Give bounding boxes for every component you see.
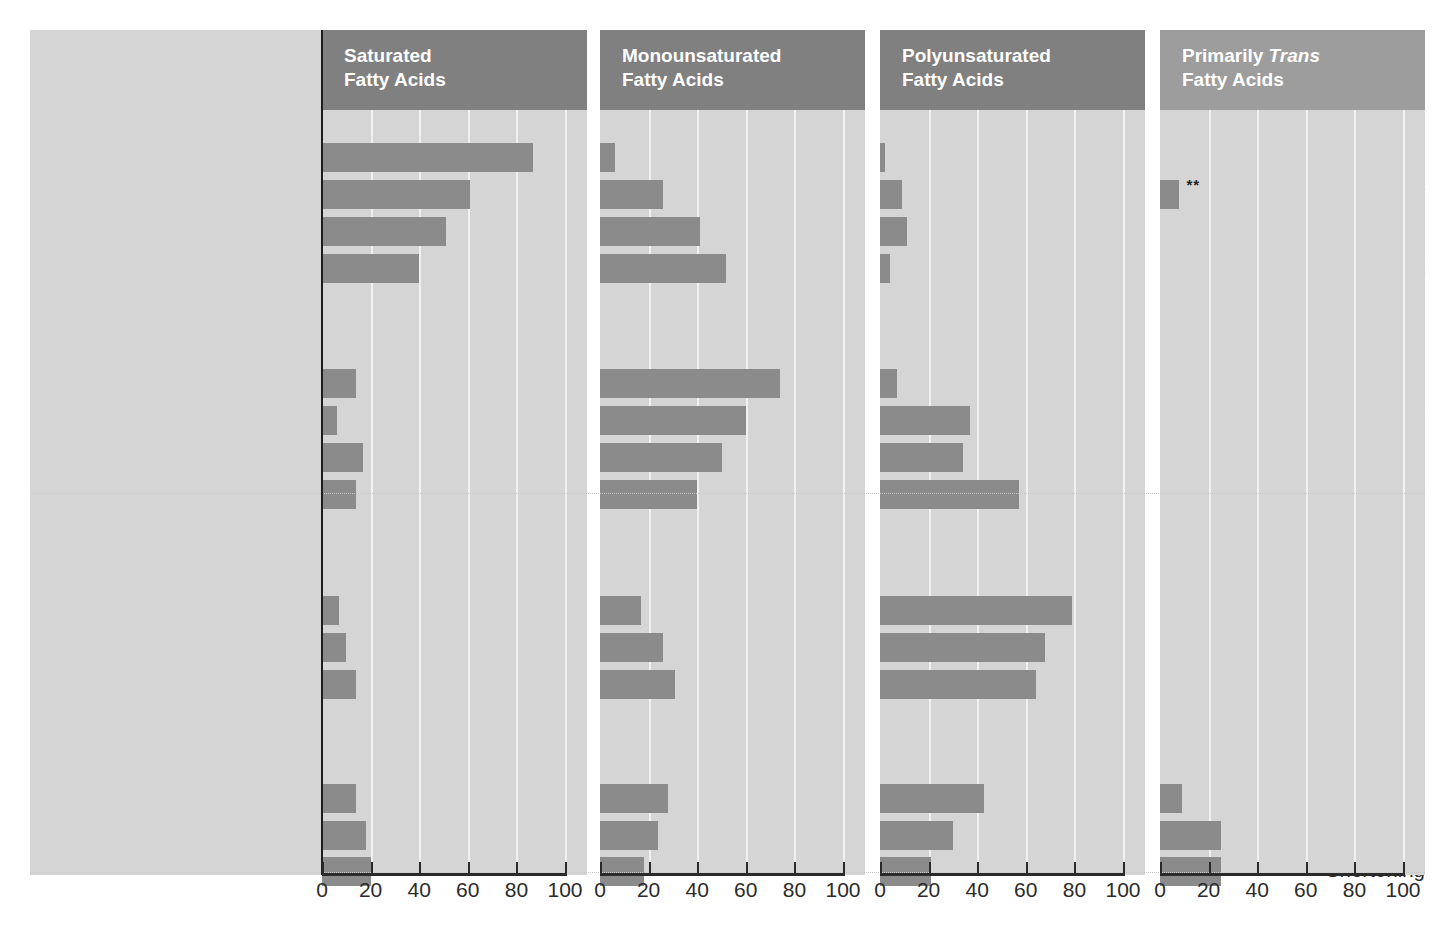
bar-polyunsaturated-tub-margarine [880,784,984,813]
x-axis-line-trans [1160,873,1405,876]
bar-monounsaturated-canola-oil [600,406,746,435]
bar-monounsaturated-corn-oil [600,670,675,699]
x-tick-label-monounsaturated-20: 20 [637,878,660,902]
x-tick-label-trans-100: 100 [1385,878,1420,902]
panel-trans: Primarily TransFatty Acids** [1160,30,1425,875]
bar-saturated-palm-oil [322,217,446,246]
x-tick-saturated-60 [468,862,470,874]
x-tick-polyunsaturated-40 [977,862,979,874]
bar-monounsaturated-peanut-oil [600,443,722,472]
x-tick-label-trans-60: 60 [1294,878,1317,902]
panel-header-polyunsaturated: PolyunsaturatedFatty Acids [880,30,1145,110]
bar-polyunsaturated-palm-oil [880,217,907,246]
bar-polyunsaturated-peanut-oil [880,443,963,472]
panel-header-trans: Primarily TransFatty Acids [1160,30,1425,110]
bar-polyunsaturated-butter [880,180,902,209]
x-tick-monounsaturated-60 [746,862,748,874]
x-tick-label-trans-20: 20 [1197,878,1220,902]
x-tick-label-saturated-40: 40 [408,878,431,902]
bar-saturated-canola-oil [322,406,337,435]
bar-monounsaturated-stick-margarine [600,821,658,850]
bar-polyunsaturated-sunflower-oil [880,633,1045,662]
bar-trans-butter [1160,180,1179,209]
x-tick-saturated-100 [565,862,567,874]
x-tick-label-monounsaturated-100: 100 [825,878,860,902]
bar-polyunsaturated-lard-or-beef-fat [880,254,890,283]
panel-header-monounsaturated: MonounsaturatedFatty Acids [600,30,865,110]
bar-polyunsaturated-stick-margarine [880,821,953,850]
x-tick-label-polyunsaturated-60: 60 [1014,878,1037,902]
bar-monounsaturated-safflower-oil [600,596,641,625]
bar-polyunsaturated-canola-oil [880,406,970,435]
x-tick-monounsaturated-40 [697,862,699,874]
x-tick-polyunsaturated-0 [880,862,882,874]
x-tick-saturated-40 [419,862,421,874]
x-tick-label-saturated-60: 60 [456,878,479,902]
x-tick-monounsaturated-20 [649,862,651,874]
panel-monounsaturated: MonounsaturatedFatty Acids [600,30,865,875]
bar-monounsaturated-coconut-oil [600,143,615,172]
x-tick-label-polyunsaturated-0: 0 [874,878,886,902]
x-tick-monounsaturated-80 [794,862,796,874]
bar-monounsaturated-tub-margarine [600,784,668,813]
x-axis-line-monounsaturated [600,873,845,876]
x-tick-trans-20 [1209,862,1211,874]
x-tick-monounsaturated-100 [843,862,845,874]
bar-saturated-lard-or-beef-fat [322,254,419,283]
bar-saturated-safflower-oil [322,596,339,625]
bar-monounsaturated-olive-oil [600,369,780,398]
x-tick-label-monounsaturated-80: 80 [783,878,806,902]
x-tick-trans-80 [1354,862,1356,874]
x-tick-label-polyunsaturated-80: 80 [1063,878,1086,902]
bar-monounsaturated-butter [600,180,663,209]
panel-header-saturated: SaturatedFatty Acids [322,30,587,110]
bar-saturated-sunflower-oil [322,633,346,662]
bar-saturated-peanut-oil [322,443,363,472]
fatty-acid-composition-chart: Saturated Fatty AcidsCoconut oilButterPa… [0,0,1447,939]
x-tick-trans-60 [1306,862,1308,874]
bar-annotation-double-asterisk: ** [1186,176,1200,193]
bar-saturated-olive-oil [322,369,356,398]
x-tick-monounsaturated-0 [600,862,602,874]
x-tick-saturated-20 [371,862,373,874]
bar-saturated-stick-margarine [322,821,366,850]
panel-saturated: SaturatedFatty Acids [322,30,587,875]
x-tick-label-polyunsaturated-20: 20 [917,878,940,902]
x-tick-label-trans-0: 0 [1154,878,1166,902]
bar-monounsaturated-lard-or-beef-fat [600,254,726,283]
x-tick-polyunsaturated-80 [1074,862,1076,874]
x-tick-label-saturated-0: 0 [316,878,328,902]
bar-polyunsaturated-safflower-oil [880,596,1072,625]
x-tick-label-saturated-20: 20 [359,878,382,902]
x-tick-polyunsaturated-20 [929,862,931,874]
category-label-column [30,30,322,875]
x-tick-trans-100 [1403,862,1405,874]
bar-saturated-butter [322,180,470,209]
x-axis-line-polyunsaturated [880,873,1125,876]
page-fold-line [30,493,1425,495]
x-tick-label-polyunsaturated-40: 40 [966,878,989,902]
bar-polyunsaturated-olive-oil [880,369,897,398]
x-tick-saturated-0 [322,862,324,874]
x-tick-label-saturated-80: 80 [505,878,528,902]
x-tick-trans-40 [1257,862,1259,874]
x-axis-line-saturated [322,873,567,876]
x-tick-label-saturated-100: 100 [547,878,582,902]
x-tick-polyunsaturated-100 [1123,862,1125,874]
bar-monounsaturated-sunflower-oil [600,633,663,662]
bar-saturated-corn-oil [322,670,356,699]
x-tick-label-trans-40: 40 [1246,878,1269,902]
x-tick-label-polyunsaturated-100: 100 [1105,878,1140,902]
chart-left-spine [321,30,323,875]
bar-saturated-tub-margarine [322,784,356,813]
bar-trans-stick-margarine [1160,821,1221,850]
bar-polyunsaturated-corn-oil [880,670,1036,699]
x-tick-polyunsaturated-60 [1026,862,1028,874]
bar-monounsaturated-palm-oil [600,217,700,246]
x-tick-label-trans-80: 80 [1343,878,1366,902]
bar-polyunsaturated-coconut-oil [880,143,885,172]
x-tick-trans-0 [1160,862,1162,874]
bar-trans-tub-margarine [1160,784,1182,813]
panel-polyunsaturated: PolyunsaturatedFatty Acids [880,30,1145,875]
x-tick-saturated-80 [516,862,518,874]
